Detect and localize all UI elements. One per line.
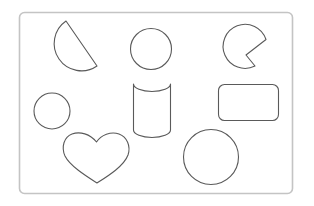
cylinder-shape xyxy=(134,84,171,137)
circle-shape xyxy=(131,29,172,70)
shapes-illustration xyxy=(0,0,314,206)
rounded-rectangle-shape xyxy=(219,85,279,121)
small-circle-shape xyxy=(34,93,70,129)
large-circle-shape xyxy=(184,130,239,185)
